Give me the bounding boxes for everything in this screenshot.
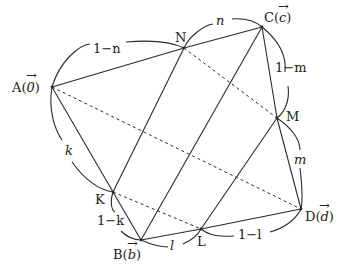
- arc-AK-2: [72, 162, 113, 192]
- point-D: [300, 208, 303, 211]
- segment-NC: [184, 27, 262, 48]
- point-A: [51, 86, 54, 89]
- arc-NC-2: [232, 19, 262, 27]
- vector-arrow-icon: →: [26, 68, 37, 83]
- point-N: [183, 47, 186, 50]
- ratio-AN: 1−n: [93, 41, 121, 56]
- ratio-KB: 1−k: [97, 213, 124, 228]
- segment-DL: [201, 209, 301, 229]
- segment-KL: [113, 192, 201, 229]
- vector-arrow-icon: →: [319, 198, 330, 213]
- point-B: [140, 239, 143, 242]
- label-L: L: [197, 234, 206, 249]
- point-L: [200, 228, 203, 231]
- point-C: [261, 26, 264, 29]
- label-K: K: [95, 192, 105, 207]
- vector-arrow-icon: →: [278, 0, 289, 14]
- point-K: [112, 191, 115, 194]
- label-N: N: [175, 30, 186, 45]
- segment-BC: [141, 27, 262, 240]
- label-B: B(b) →: [113, 236, 141, 262]
- vector-arrow-icon: →: [127, 236, 138, 251]
- ratio-CM: 1−m: [275, 60, 307, 75]
- arc-BL: [141, 240, 168, 247]
- label-C: C(c) →: [264, 0, 291, 25]
- ratio-AK: k: [65, 143, 73, 158]
- label-A: A(0) →: [11, 68, 40, 95]
- segment-AD: [52, 87, 301, 209]
- segment-KN: [113, 48, 184, 192]
- quadrilateral-diagram: A(0) → B(b) → C(c) → D(d) → K L M N 1−n …: [0, 0, 340, 267]
- point-M: [276, 117, 279, 120]
- ratio-NC: n: [216, 13, 224, 28]
- ratio-MD: m: [294, 152, 306, 167]
- arc-MD-2: [300, 168, 302, 209]
- segment-LM: [201, 118, 277, 229]
- label-D: D(d) →: [305, 198, 334, 224]
- ratio-LD: 1−l: [238, 227, 261, 242]
- label-M: M: [286, 109, 299, 124]
- arc-AN: [52, 44, 90, 87]
- ratio-BL: l: [170, 238, 174, 253]
- arc-LD: [201, 229, 234, 236]
